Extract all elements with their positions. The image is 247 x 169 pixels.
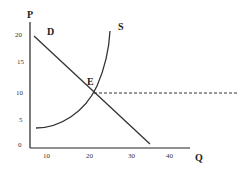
demand-line bbox=[34, 36, 150, 144]
x-tick-40: 40 bbox=[166, 152, 174, 160]
y-tick-10: 10 bbox=[16, 89, 24, 97]
supply-curve bbox=[36, 31, 110, 128]
supply-label: S bbox=[118, 21, 124, 32]
y-tick-15: 15 bbox=[17, 58, 25, 66]
x-tick-10: 10 bbox=[43, 152, 51, 160]
y-tick-0: 0 bbox=[18, 141, 22, 149]
x-tick-30: 30 bbox=[128, 152, 136, 160]
demand-label: D bbox=[47, 26, 54, 37]
y-axis-label: P bbox=[27, 9, 33, 20]
supply-demand-chart: P Q 20 15 10 5 0 10 20 30 40 D S E bbox=[0, 0, 247, 169]
x-axis-label: Q bbox=[195, 152, 203, 163]
x-tick-20: 20 bbox=[86, 152, 94, 160]
y-tick-5: 5 bbox=[19, 116, 23, 124]
y-tick-20: 20 bbox=[15, 31, 23, 39]
equilibrium-label: E bbox=[87, 76, 94, 87]
